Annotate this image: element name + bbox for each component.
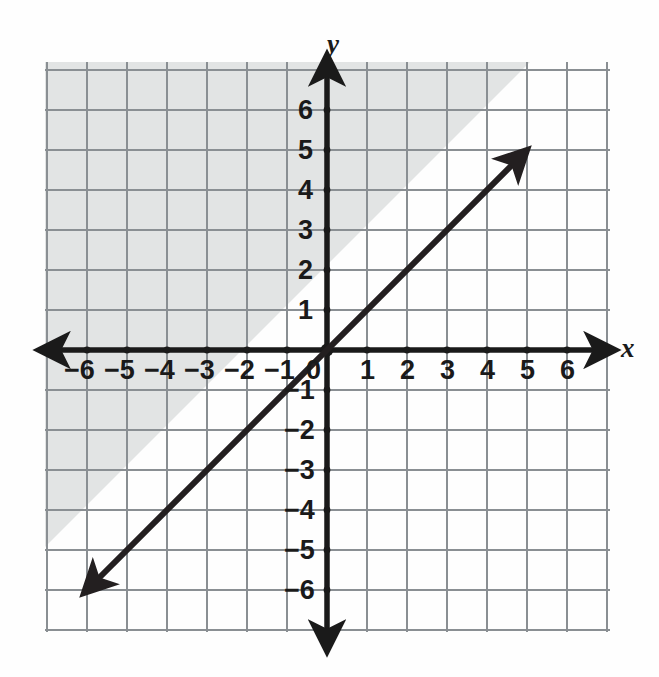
y-tick-label-4: 4 [298,177,313,204]
coordinate-plane-svg [0,0,659,677]
y-axis-label: y [327,31,339,58]
x-tick-label-4: 4 [480,357,495,384]
y-tick-label-1: 1 [298,297,313,324]
x-tick-label-2: 2 [400,357,415,384]
x-tick-label--2: −2 [224,357,255,384]
y-tick-label--2: −2 [284,417,315,444]
y-tick-label--4: −4 [284,497,315,524]
y-tick-label-6: 6 [298,97,313,124]
x-tick-label-5: 5 [520,357,535,384]
shaded-region [0,62,530,632]
x-tick-label-1: 1 [360,357,375,384]
y-tick-label--6: −6 [284,577,315,604]
y-tick-label-3: 3 [298,217,313,244]
x-tick-label--6: −6 [64,357,95,384]
y-tick-label--3: −3 [284,457,315,484]
graph-figure: −6 −5 −4 −3 −2 −1 0 1 2 3 4 5 6 6 5 4 3 … [0,0,659,677]
x-tick-label--4: −4 [144,357,175,384]
x-tick-label-6: 6 [560,357,575,384]
x-tick-label--3: −3 [184,357,215,384]
x-axis-label: x [621,335,635,362]
x-tick-label-3: 3 [440,357,455,384]
x-tick-label--5: −5 [104,357,135,384]
y-tick-label--5: −5 [284,537,315,564]
y-tick-label--1: −1 [284,377,315,404]
y-tick-label-5: 5 [298,137,313,164]
y-tick-label-2: 2 [298,257,313,284]
